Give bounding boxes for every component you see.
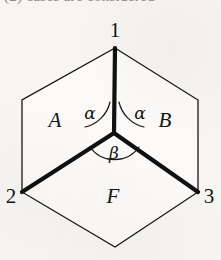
figure-page: (2) cases are considered 1 2 3 A B F α α… [0,0,221,260]
vertex-label-3: 3 [204,186,215,207]
vertex-label-1: 1 [110,20,121,41]
thick-edge-center-to-vertex-1 [114,48,115,133]
region-label-f: F [107,186,120,207]
angle-label-alpha-right: α [134,105,145,122]
angle-label-beta: β [109,145,119,162]
region-label-a: A [49,110,62,131]
angle-label-alpha-left: α [84,105,95,122]
vertex-label-2: 2 [6,186,17,207]
region-label-b: B [159,110,172,131]
